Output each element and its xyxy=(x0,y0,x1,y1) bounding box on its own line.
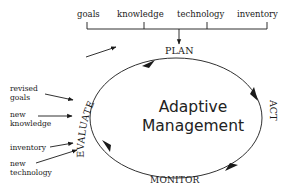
center-title-line2: Management xyxy=(128,117,258,136)
stage-evaluate: EVALUATE xyxy=(75,99,97,158)
output-revised-goals: revised goals xyxy=(10,84,38,102)
output-new-knowledge: new knowledge xyxy=(10,110,51,128)
input-knowledge: knowledge xyxy=(117,10,164,19)
output-inventory: inventory xyxy=(10,143,46,152)
output-new-technology: new technology xyxy=(10,159,52,177)
input-goals: goals xyxy=(77,10,100,19)
inputs-bracket xyxy=(87,22,267,44)
center-title: Adaptive Management xyxy=(128,98,258,136)
input-inventory: inventory xyxy=(237,10,278,19)
center-title-line1: Adaptive xyxy=(128,98,258,117)
stage-monitor: MONITOR xyxy=(150,176,200,185)
stage-plan: PLAN xyxy=(165,46,194,56)
input-technology: technology xyxy=(177,10,224,19)
input-arrow xyxy=(86,47,116,57)
evaluate-arrows xyxy=(36,94,77,163)
stage-act: ACT xyxy=(268,99,279,121)
